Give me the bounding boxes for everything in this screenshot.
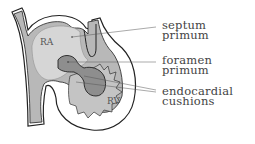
label-foramen-primum-line2: primum bbox=[162, 65, 212, 75]
heart-diagram bbox=[0, 0, 255, 144]
label-septum-primum-line2: primum bbox=[162, 30, 209, 40]
label-septum-primum: septum primum bbox=[162, 20, 209, 40]
label-endocardial-cushions: endocardial cushions bbox=[162, 86, 233, 106]
label-foramen-primum: foramen primum bbox=[162, 55, 212, 75]
label-rv: RV bbox=[107, 96, 120, 106]
label-ra: RA bbox=[40, 37, 53, 47]
